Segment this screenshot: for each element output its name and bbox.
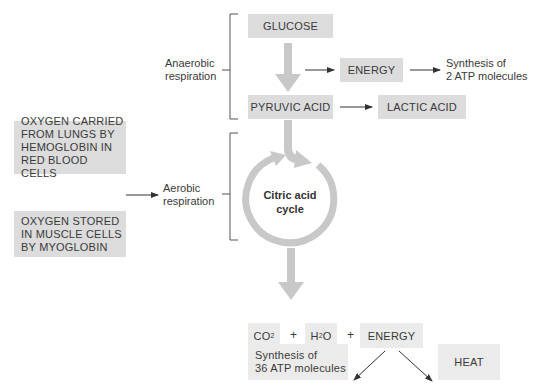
glucose-text: GLUCOSE — [263, 20, 318, 32]
aerobic-label: Aerobic respiration — [163, 182, 214, 208]
aerobic-energy-text: ENERGY — [368, 330, 416, 342]
pyruvic-to-cycle-arrow — [288, 120, 312, 168]
heat-text: HEAT — [454, 356, 483, 368]
glucose-box: GLUCOSE — [248, 14, 333, 38]
plus-sign-1: + — [290, 328, 297, 342]
anaerobic-label-line1: Anaerobic — [165, 57, 216, 70]
oxygen-hemoglobin-line4: RED BLOOD CELLS — [21, 154, 126, 180]
oxygen-hemoglobin-line1: OXYGEN CARRIED — [21, 115, 123, 128]
cycle-to-products-arrow — [278, 248, 304, 300]
cycle-line1: Citric acid — [250, 188, 330, 202]
atp36-line1: Synthesis of — [255, 349, 317, 362]
h2o-o-text: O — [323, 330, 332, 342]
aerobic-energy-box: ENERGY — [360, 323, 423, 348]
pyruvic-acid-text: PYRUVIC ACID — [250, 101, 330, 113]
co2-subscript: 2 — [270, 332, 274, 339]
aerobic-label-line1: Aerobic — [163, 182, 214, 195]
citric-acid-cycle-label: Citric acid cycle — [250, 188, 330, 216]
atp2-line1: Synthesis of — [446, 57, 528, 70]
atp2-line2: 2 ATP molecules — [446, 70, 528, 83]
h2o-h-text: H — [310, 330, 318, 342]
anaerobic-label: Anaerobic respiration — [165, 57, 216, 83]
oxygen-myoglobin-box: OXYGEN STORED IN MUSCLE CELLS BY MYOGLOB… — [14, 211, 126, 257]
lactic-acid-text: LACTIC ACID — [387, 101, 457, 113]
oxygen-myoglobin-line2: IN MUSCLE CELLS — [21, 228, 122, 241]
energy-to-heat-arrow — [399, 351, 432, 381]
oxygen-myoglobin-line3: BY MYOGLOBIN — [21, 241, 108, 254]
oxygen-myoglobin-line1: OXYGEN STORED — [21, 215, 119, 228]
atp36-line2: 36 ATP molecules — [255, 362, 346, 375]
oxygen-hemoglobin-line3: HEMOGLOBIN IN — [21, 141, 112, 154]
atp36-synthesis-box: Synthesis of 36 ATP molecules — [248, 344, 348, 380]
lactic-acid-box: LACTIC ACID — [378, 95, 466, 119]
co2-text: CO — [254, 330, 271, 342]
anaerobic-label-line2: respiration — [165, 70, 216, 83]
glucose-to-pyruvic-arrow — [275, 43, 301, 92]
heat-box: HEAT — [438, 344, 500, 380]
cycle-line2: cycle — [250, 202, 330, 216]
oxygen-hemoglobin-line2: FROM LUNGS BY — [21, 128, 115, 141]
anaerobic-energy-text: ENERGY — [348, 64, 396, 76]
aerobic-label-line2: respiration — [163, 195, 214, 208]
oxygen-hemoglobin-box: OXYGEN CARRIED FROM LUNGS BY HEMOGLOBIN … — [14, 121, 126, 174]
plus-sign-2: + — [347, 328, 354, 342]
anaerobic-bracket — [222, 14, 238, 119]
pyruvic-acid-box: PYRUVIC ACID — [248, 95, 333, 119]
atp2-synthesis-label: Synthesis of 2 ATP molecules — [446, 57, 528, 83]
aerobic-bracket — [222, 133, 238, 240]
anaerobic-energy-box: ENERGY — [340, 58, 403, 82]
energy-to-atp-arrow — [354, 351, 385, 380]
